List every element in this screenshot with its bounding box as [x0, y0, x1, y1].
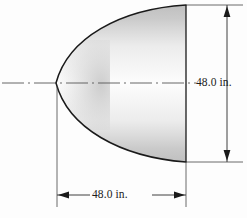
horizontal-dimension-label: 48.0 in. — [92, 188, 128, 200]
arrow-left-icon — [58, 192, 69, 199]
parabola-shading — [50, 0, 190, 167]
arrow-down-icon — [224, 150, 231, 161]
technical-drawing-svg — [0, 0, 247, 218]
vertical-dimension-label: 48.0 in. — [196, 76, 232, 88]
figure-container: 48.0 in. 48.0 in. — [0, 0, 247, 218]
arrow-right-icon — [174, 192, 185, 199]
arrow-up-icon — [224, 6, 231, 17]
